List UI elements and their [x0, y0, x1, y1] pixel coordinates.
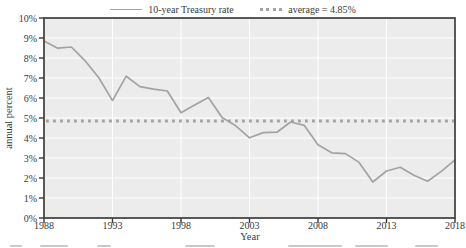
- y-tick-label: 6%: [24, 93, 37, 104]
- y-tick-label: 1%: [24, 193, 37, 204]
- y-tick-label: 10%: [19, 13, 37, 24]
- y-tick-label: 5%: [24, 113, 37, 124]
- y-tick-label: 9%: [24, 33, 37, 44]
- y-tick-label: 3%: [24, 153, 37, 164]
- y-tick-label: 7%: [24, 73, 37, 84]
- x-tick-label: 2008: [308, 220, 328, 231]
- figure: 10-year Treasury rate average = 4.85% 0%…: [0, 0, 466, 248]
- y-tick-label: 2%: [24, 173, 37, 184]
- x-tick-label: 1993: [103, 220, 123, 231]
- y-tick-label: 4%: [24, 133, 37, 144]
- y-axis-label: annual percent: [3, 87, 14, 149]
- x-tick-label: 1998: [171, 220, 191, 231]
- y-tick-label: 8%: [24, 53, 37, 64]
- x-axis-label: Year: [240, 231, 260, 242]
- x-tick-label: 2003: [240, 220, 260, 231]
- x-tick-label: 1988: [34, 220, 54, 231]
- x-tick-label: 2018: [445, 220, 465, 231]
- x-tick-label: 2013: [377, 220, 397, 231]
- chart: 0%1%2%3%4%5%6%7%8%9%10%19881993199820032…: [0, 0, 466, 248]
